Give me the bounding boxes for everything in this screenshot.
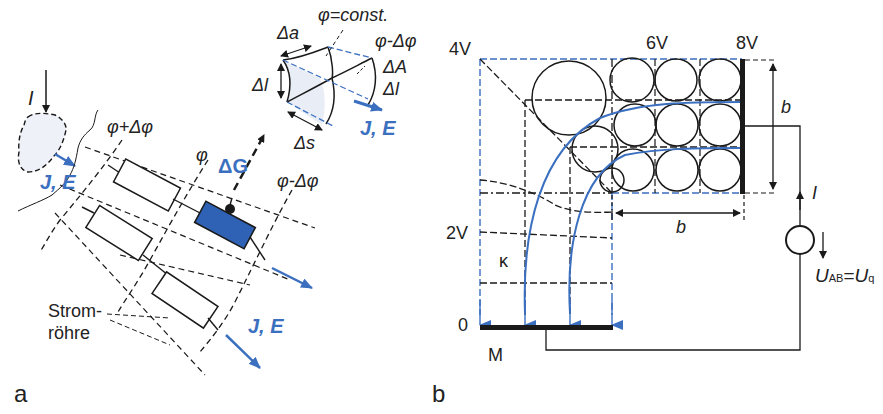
panel-label-a: a <box>14 382 27 406</box>
flux-tube-label-line1: Strom- <box>48 302 102 320</box>
conductance-label: ΔG <box>218 156 248 176</box>
field-label-bottom: J, E <box>248 316 284 336</box>
panel-b-graphics <box>480 58 823 350</box>
field-label-small: J, E <box>40 172 76 192</box>
current-label-a: I <box>28 88 34 108</box>
delta-a-label: Δa <box>277 24 299 42</box>
potential-6v: 6V <box>646 34 668 52</box>
volume-element <box>281 30 382 130</box>
voltage-label: UAB=Uq <box>815 266 874 285</box>
panel-label-b: b <box>432 382 445 406</box>
phi-minus-label-element: φ-Δφ <box>375 32 417 50</box>
phi-const-label: φ=const. <box>318 6 388 24</box>
potential-8v: 8V <box>736 34 758 52</box>
potential-0: 0 <box>458 316 468 334</box>
current-label-b: I <box>812 184 817 202</box>
width-label-vertical: b <box>781 98 791 116</box>
field-label-element: J, E <box>360 118 396 138</box>
ground-label: M <box>488 346 503 364</box>
equipotential-label-plus: φ+Δφ <box>107 118 153 136</box>
width-label-horizontal: b <box>676 218 686 236</box>
delta-l-left-label: Δl <box>252 76 268 94</box>
delta-s-label: Δs <box>294 134 315 152</box>
conductivity-label: κ <box>499 252 508 270</box>
delta-l-right-label: Δl <box>383 80 399 98</box>
flux-tube-label-line2: röhre <box>48 324 90 342</box>
equipotential-label-phi: φ <box>196 146 208 164</box>
equipotential-label-minus: φ-Δφ <box>277 172 319 190</box>
delta-A-label: ΔA <box>383 58 407 76</box>
diagram-stage: I J, E φ+Δφ φ φ-Δφ ΔG φ=const. Δa φ-Δφ Δ… <box>0 0 883 414</box>
potential-4v: 4V <box>449 40 471 58</box>
diagram-graphics <box>0 0 883 414</box>
potential-2v: 2V <box>446 224 468 242</box>
